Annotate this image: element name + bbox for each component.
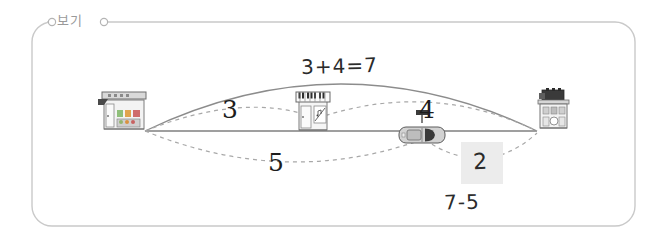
car-icon bbox=[396, 122, 448, 148]
piano-shop-icon bbox=[293, 89, 333, 132]
grocery-store-icon bbox=[96, 86, 148, 132]
segment-label-three: 3 bbox=[222, 97, 238, 122]
segment-label-five: 5 bbox=[268, 150, 284, 175]
equation-top: 3+4=7 bbox=[301, 55, 378, 77]
arc-total bbox=[145, 84, 537, 131]
equation-bottom: 7-5 bbox=[444, 192, 480, 213]
answer-value: 2 bbox=[472, 151, 487, 174]
apartment-building-icon bbox=[533, 86, 575, 132]
segment-label-four: 4 bbox=[419, 97, 435, 122]
example-panel: 보기 bbox=[0, 0, 665, 247]
